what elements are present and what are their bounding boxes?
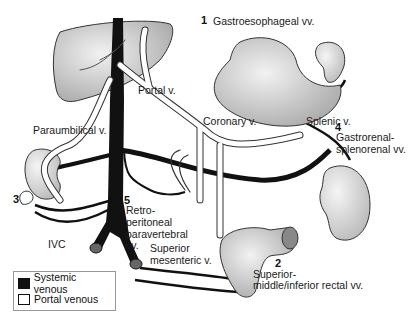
label-retroperitoneal-line1: Retro- [126,204,155,216]
label-superior-mesenteric-line1: Superior [150,242,190,254]
label-portal-v: Portal v. [138,84,176,96]
label-splenic-v: Splenic v. [306,115,351,127]
label-ivc: IVC [48,238,66,250]
label-rectal-line2: middle/inferior rectal vv. [253,279,363,291]
paraumbilical-plexus [20,191,33,204]
legend: Systemic venous Portal venous [13,271,116,311]
legend-label-systemic: Systemic venous [34,271,111,295]
label-paraumbilical-v: Paraumbilical v. [33,124,106,136]
label-retroperitoneal-line4: vv. [126,239,139,251]
label-superior-mesenteric-line2: mesenteric v. [150,254,212,266]
label-gastrorenal-line1: Gastrorenal- [336,131,394,143]
label-coronary-v: Coronary v. [203,115,257,127]
anastomosis-number-3: 3 [13,193,19,205]
portal-swatch [18,294,30,305]
spleen [316,42,345,82]
label-retroperitoneal-line2: peritoneal [126,216,172,228]
systemic-swatch [18,278,30,289]
label-gastroesophageal: Gastroesophageal vv. [213,15,314,27]
kidney-left [320,166,370,240]
label-gastrorenal-line2: splenorenal vv. [336,143,406,155]
legend-item-portal: Portal venous [18,291,111,307]
legend-item-systemic: Systemic venous [18,275,111,291]
anastomosis-number-1: 1 [201,14,207,26]
legend-label-portal: Portal venous [34,293,98,305]
